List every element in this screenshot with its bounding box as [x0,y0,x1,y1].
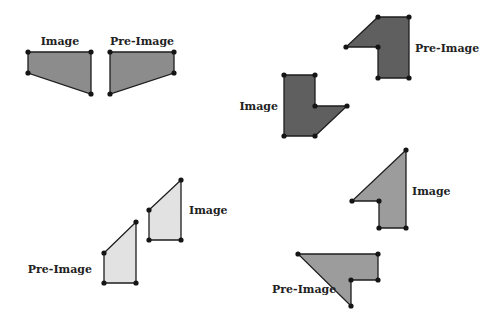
vertex-point [171,70,176,75]
vertex-point [25,49,30,54]
image-polygon [352,150,406,228]
vertex-point [375,75,380,80]
vertex-point [406,14,411,19]
vertex-point [375,277,380,282]
vertex-point [343,44,348,49]
vertex-point [403,225,408,230]
vertex-point [146,237,151,242]
vertex-point [295,251,300,256]
pair-3: ImagePre-Image [28,177,228,285]
vertex-point [146,207,151,212]
preimage-polygon [110,52,174,94]
image-polygon [149,180,181,240]
vertex-point [375,44,380,49]
preimage-polygon-group: Pre-Image [272,251,381,308]
image-polygon-group: Image [349,147,450,230]
vertex-point [406,75,411,80]
image-polygon-group: Image [239,72,349,138]
preimage-label: Pre-Image [415,42,479,55]
vertex-point [178,177,183,182]
vertex-point [101,280,106,285]
image-polygon-group: Image [146,177,227,242]
image-polygon [28,52,91,94]
preimage-polygon-group: Pre-Image [107,35,176,97]
vertex-point [178,237,183,242]
preimage-label: Pre-Image [28,263,92,276]
vertex-point [88,49,93,54]
pair-4: ImagePre-Image [272,147,451,308]
image-label: Image [239,100,278,113]
vertex-point [375,14,380,19]
vertex-point [348,303,353,308]
image-label: Image [189,204,228,217]
vertex-point [25,70,30,75]
vertex-point [376,225,381,230]
preimage-polygon [298,254,378,306]
vertex-point [107,91,112,96]
preimage-label: Pre-Image [110,35,174,48]
vertex-point [133,280,138,285]
vertex-point [171,49,176,54]
image-polygon-group: Image [25,35,93,97]
transformation-diagram: ImagePre-ImageImagePre-ImageImagePre-Ima… [0,0,489,328]
image-label: Image [412,185,451,198]
vertex-point [107,49,112,54]
vertex-point [375,251,380,256]
vertex-point [349,198,354,203]
vertex-point [312,133,317,138]
vertex-point [312,72,317,77]
vertex-point [281,133,286,138]
vertex-point [88,91,93,96]
pair-2: ImagePre-Image [239,14,479,138]
image-label: Image [41,35,80,48]
preimage-polygon-group: Pre-Image [28,219,139,285]
vertex-point [312,103,317,108]
vertex-point [133,219,138,224]
vertex-point [344,103,349,108]
vertex-point [281,72,286,77]
vertex-point [348,277,353,282]
vertex-point [101,250,106,255]
preimage-polygon-group: Pre-Image [343,14,479,80]
preimage-label: Pre-Image [272,283,336,296]
vertex-point [376,198,381,203]
preimage-polygon [104,222,136,283]
vertex-point [403,147,408,152]
pair-1: ImagePre-Image [25,35,176,97]
